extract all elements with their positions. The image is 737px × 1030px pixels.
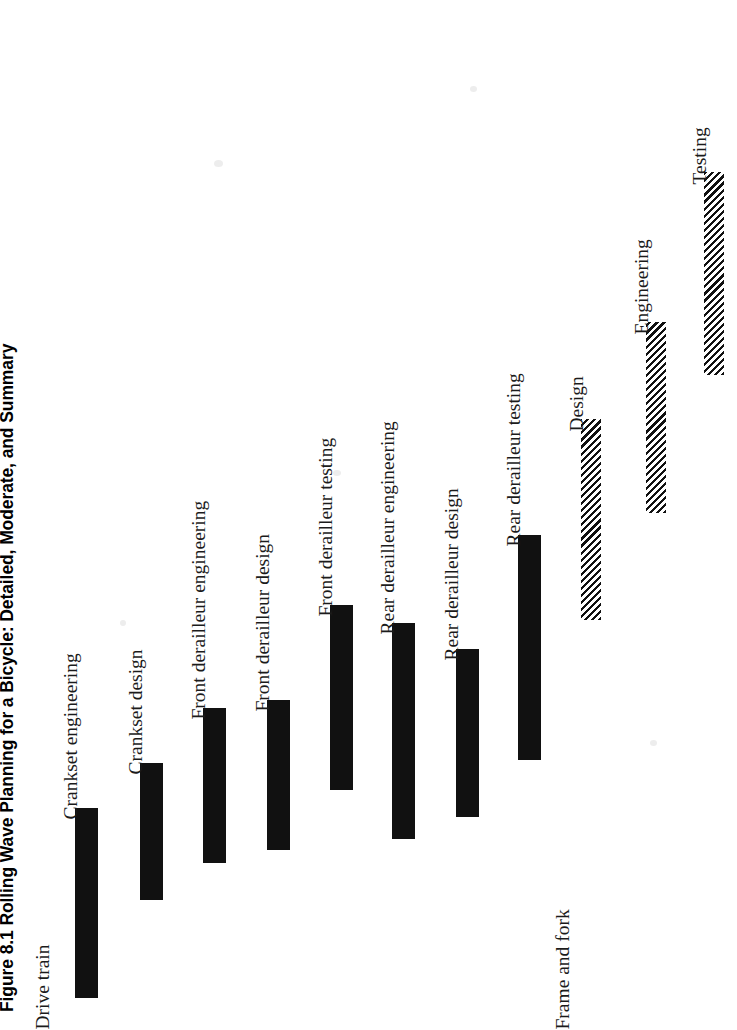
legend-label-engineering: Engineering	[632, 239, 652, 334]
gantt-bar-rear-derailleur-design[interactable]	[456, 649, 479, 817]
gantt-bar-crankset-design[interactable]	[140, 763, 163, 900]
figure-title: Figure 8.1 Rolling Wave Planning for a B…	[0, 344, 17, 1012]
scan-speck	[650, 740, 657, 746]
task-label-rear-derailleur-design: Rear derailleur design	[442, 488, 462, 660]
gantt-bar-front-derailleur-design[interactable]	[267, 700, 290, 850]
gantt-bar-crankset-engineering[interactable]	[75, 808, 98, 998]
summary-bar-testing[interactable]	[704, 172, 724, 375]
gantt-bar-rear-derailleur-engineering[interactable]	[392, 623, 415, 839]
group-label-frame-and-fork: Frame and fork	[553, 909, 573, 1029]
group-label-drive-train: Drive train	[33, 944, 53, 1029]
scan-speck	[470, 86, 477, 92]
gantt-bar-front-derailleur-engineering[interactable]	[203, 708, 226, 863]
task-label-crankset-design: Crankset design	[126, 649, 146, 774]
task-label-front-derailleur-engineering: Front derailleur engineering	[189, 501, 209, 720]
gantt-bar-front-derailleur-testing[interactable]	[330, 605, 353, 790]
task-label-rear-derailleur-engineering: Rear derailleur engineering	[378, 421, 398, 634]
scan-speck	[214, 160, 223, 167]
legend-label-design: Design	[567, 376, 587, 431]
task-label-front-derailleur-testing: Front derailleur testing	[316, 438, 336, 617]
summary-bar-design[interactable]	[581, 419, 601, 620]
task-label-rear-derailleur-testing: Rear derailleur testing	[504, 373, 524, 546]
scan-speck	[333, 470, 341, 476]
task-label-crankset-engineering: Crankset engineering	[61, 653, 81, 819]
task-label-front-derailleur-design: Front derailleur design	[253, 534, 273, 712]
legend-label-testing: Testing	[690, 127, 710, 184]
gantt-bar-rear-derailleur-testing[interactable]	[518, 535, 541, 760]
scan-speck	[120, 620, 126, 626]
summary-bar-engineering[interactable]	[646, 322, 666, 513]
